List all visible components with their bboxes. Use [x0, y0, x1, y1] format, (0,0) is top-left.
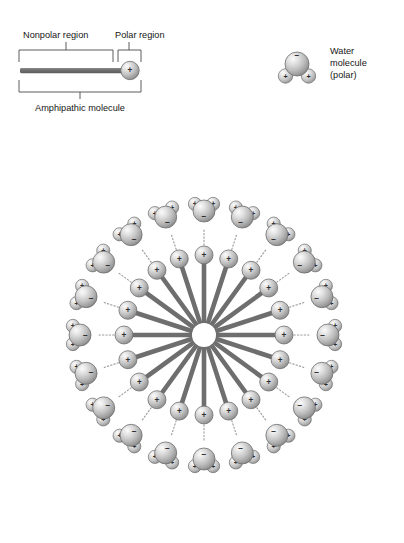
water-oxygen — [266, 224, 288, 246]
polar-head-charge: + — [249, 266, 254, 275]
polar-head-charge: + — [122, 331, 127, 340]
polar-head: + — [195, 246, 213, 264]
polar-region-label: Polar region — [115, 30, 165, 40]
water-oxygen-charge: − — [202, 449, 207, 459]
legend-head-charge: + — [128, 66, 133, 75]
polar-head-charge: + — [155, 266, 160, 275]
water-oxygen — [75, 362, 97, 384]
polar-head-charge: + — [282, 331, 287, 340]
water-oxygen-charge: − — [202, 211, 207, 221]
water-legend-line2: molecule — [330, 58, 367, 68]
nonpolar-region-label: Nonpolar region — [23, 30, 88, 40]
amphipathic-molecule-label: Amphipathic molecule — [35, 103, 125, 113]
polar-head: + — [271, 301, 289, 319]
water-oxygen-charge: − — [165, 217, 170, 227]
water-oxygen-charge: − — [106, 260, 111, 270]
water-oxygen-charge: − — [238, 443, 243, 453]
water-oxygen-charge: − — [132, 426, 137, 436]
micelle-figure-svg: Nonpolar region Polar region + — [0, 0, 404, 543]
polar-head-charge: + — [202, 411, 207, 420]
polar-head-charge: + — [126, 306, 131, 315]
legend-polar-head: + — [121, 61, 139, 79]
polar-head-charge: + — [278, 306, 283, 315]
polar-head: + — [242, 391, 260, 409]
polar-head: + — [260, 279, 278, 297]
water-oxygen-charge: − — [271, 234, 276, 244]
polar-head: + — [242, 261, 260, 279]
polar-head: + — [220, 402, 238, 420]
water-oxygen-charge: − — [106, 400, 111, 410]
water-oxygen — [93, 251, 115, 273]
water-legend-line1: Water — [330, 46, 354, 56]
polar-head: + — [130, 279, 148, 297]
polar-head: + — [170, 402, 188, 420]
polar-head: + — [130, 373, 148, 391]
polar-head-charge: + — [177, 407, 182, 416]
polar-head: + — [148, 391, 166, 409]
water-oxygen — [266, 424, 288, 446]
polar-head-charge: + — [155, 396, 160, 405]
polar-head-charge: + — [266, 284, 271, 293]
polar-head: + — [148, 261, 166, 279]
micelle-figure-root: Nonpolar region Polar region + — [0, 0, 404, 543]
water-oxygen-charge: − — [314, 293, 319, 303]
polar-head-charge: + — [226, 255, 231, 264]
legend-nonpolar-tail — [20, 68, 128, 73]
polar-head: + — [119, 301, 137, 319]
polar-head: + — [195, 406, 213, 424]
polar-head-charge: + — [137, 284, 142, 293]
water-oxygen — [75, 286, 97, 308]
polar-head: + — [220, 250, 238, 268]
polar-head: + — [271, 351, 289, 369]
legend-water-oxygen-charge: − — [295, 50, 300, 60]
water-oxygen-charge: − — [297, 260, 302, 270]
water-oxygen-charge: − — [320, 330, 325, 340]
polar-head-charge: + — [177, 255, 182, 264]
water-legend-line3: (polar) — [330, 70, 357, 80]
polar-head: + — [119, 351, 137, 369]
water-oxygen — [93, 397, 115, 419]
micelle-hydrophobic-core — [192, 323, 216, 347]
polar-head-charge: + — [266, 378, 271, 387]
polar-head-charge: + — [249, 396, 254, 405]
polar-head-charge: + — [278, 356, 283, 365]
polar-head: + — [260, 373, 278, 391]
legend-water-hydrogen-right-charge: + — [306, 72, 310, 81]
legend-water-hydrogen-left-charge: + — [283, 72, 287, 81]
water-oxygen-charge: − — [165, 443, 170, 453]
polar-head-charge: + — [137, 378, 142, 387]
water-oxygen-charge: − — [238, 217, 243, 227]
water-oxygen-charge: − — [297, 400, 302, 410]
polar-head: + — [170, 250, 188, 268]
polar-head-charge: + — [226, 407, 231, 416]
water-oxygen-charge: − — [83, 330, 88, 340]
water-oxygen-charge: − — [89, 367, 94, 377]
polar-head-charge: + — [126, 356, 131, 365]
polar-head: + — [275, 326, 293, 344]
water-oxygen-charge: − — [271, 426, 276, 436]
water-oxygen-charge: − — [89, 293, 94, 303]
water-oxygen-charge: − — [132, 234, 137, 244]
water-oxygen-charge: − — [314, 367, 319, 377]
polar-head-charge: + — [202, 251, 207, 260]
polar-head: + — [115, 326, 133, 344]
